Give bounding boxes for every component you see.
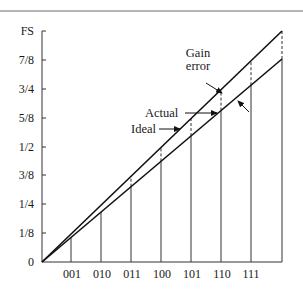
ideal-label: Ideal bbox=[131, 122, 157, 136]
x-tick-labels: 001 010 011 100 101 110 111 bbox=[63, 267, 260, 281]
actual-label: Actual bbox=[145, 106, 179, 120]
gain-error-arrow-upper bbox=[206, 83, 222, 93]
y-tick-1-4: 1/4 bbox=[19, 197, 34, 211]
y-tick-7-8: 7/8 bbox=[19, 53, 34, 67]
x-tick-001: 001 bbox=[63, 267, 81, 281]
x-tick-010: 010 bbox=[93, 267, 111, 281]
actual-line bbox=[42, 59, 282, 262]
y-tick-3-8: 3/8 bbox=[19, 168, 34, 182]
code-bars bbox=[71, 59, 282, 262]
y-tick-5-8: 5/8 bbox=[19, 111, 34, 125]
y-tick-1-2: 1/2 bbox=[19, 140, 34, 154]
y-tick-fs: FS bbox=[21, 24, 34, 38]
x-tick-101: 101 bbox=[183, 267, 201, 281]
dac-gain-error-diagram: FS 7/8 3/4 5/8 1/2 3/8 1/4 1/8 0 001 010… bbox=[0, 0, 303, 289]
ideal-line bbox=[42, 31, 282, 262]
x-tick-110: 110 bbox=[213, 267, 231, 281]
gain-error-label-line1: Gain bbox=[186, 46, 211, 60]
gain-error-label-line2: error bbox=[186, 59, 211, 73]
y-tick-labels: FS 7/8 3/4 5/8 1/2 3/8 1/4 1/8 0 bbox=[19, 24, 34, 269]
x-tick-100: 100 bbox=[153, 267, 171, 281]
y-tick-1-8: 1/8 bbox=[19, 226, 34, 240]
y-tick-0: 0 bbox=[28, 255, 34, 269]
x-tick-011: 011 bbox=[123, 267, 141, 281]
y-tick-3-4: 3/4 bbox=[19, 82, 34, 96]
x-tick-111: 111 bbox=[242, 267, 259, 281]
gain-error-arrow-lower bbox=[238, 101, 249, 112]
